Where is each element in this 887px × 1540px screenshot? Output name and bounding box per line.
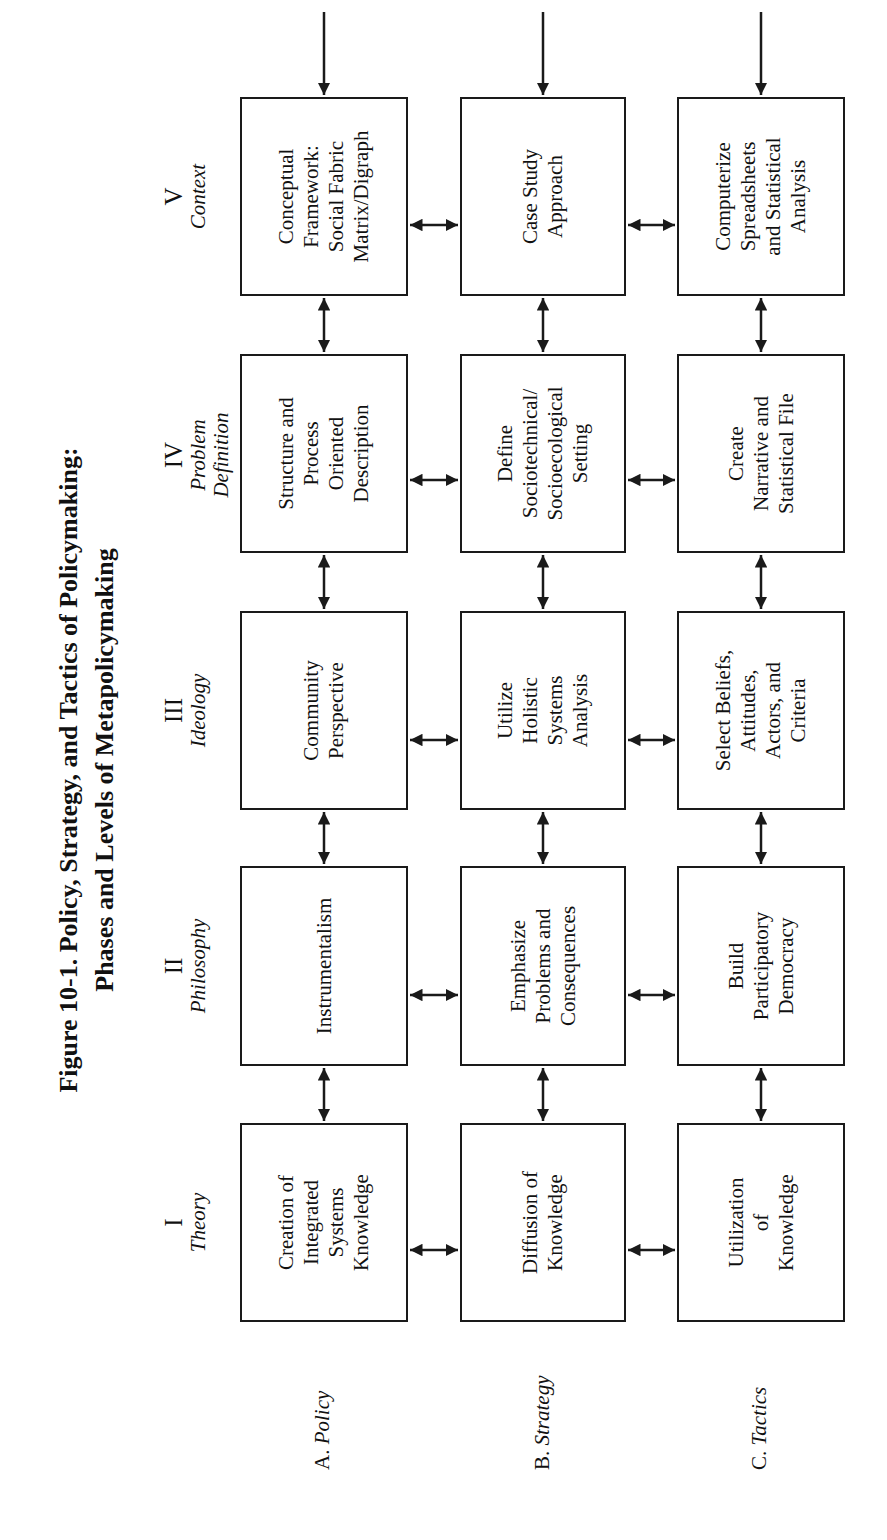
cell-text: Create Narrative and Statistical File [724, 393, 799, 514]
cell-policy-theory: Creation of Integrated Systems Knowledge [240, 1123, 408, 1322]
cell-text: Conceptual Framework: Social Fabric Matr… [274, 131, 374, 263]
cell-strategy-problem-definition: Define Sociotechnical/ Socioecological S… [460, 354, 626, 553]
cell-tactics-ideology: Select Beliefs, Attitudes, Actors, and C… [677, 611, 845, 810]
cell-text: Utilization of Knowledge [724, 1174, 799, 1271]
cell-strategy-context: Case Study Approach [460, 97, 626, 296]
cell-policy-philosophy: Instrumentalism [240, 866, 408, 1066]
cell-tactics-problem-definition: Create Narrative and Statistical File [677, 354, 845, 553]
cell-tactics-philosophy: Build Participatory Democracy [677, 866, 845, 1066]
cell-text: Creation of Integrated Systems Knowledge [274, 1174, 374, 1271]
cell-policy-context: Conceptual Framework: Social Fabric Matr… [240, 97, 408, 296]
cell-text: Structure and Process Oriented Descripti… [274, 397, 374, 510]
cell-strategy-ideology: Utilize Holistic Systems Analysis [460, 611, 626, 810]
cell-text: Diffusion of Knowledge [518, 1171, 568, 1274]
cell-tactics-context: Computerize Spreadsheets and Statistical… [677, 97, 845, 296]
cell-text: Emphasize Problems and Consequences [506, 906, 581, 1026]
cell-text: Build Participatory Democracy [724, 912, 799, 1020]
cell-tactics-theory: Utilization of Knowledge [677, 1123, 845, 1322]
cell-text: Computerize Spreadsheets and Statistical… [711, 137, 811, 255]
cell-strategy-theory: Diffusion of Knowledge [460, 1123, 626, 1322]
cell-policy-problem-definition: Structure and Process Oriented Descripti… [240, 354, 408, 553]
cell-strategy-philosophy: Emphasize Problems and Consequences [460, 866, 626, 1066]
cell-policy-ideology: Community Perspective [240, 611, 408, 810]
cell-text: Define Sociotechnical/ Socioecological S… [493, 386, 593, 520]
cell-text: Select Beliefs, Attitudes, Actors, and C… [711, 650, 811, 771]
cell-text: Instrumentalism [312, 898, 337, 1034]
cell-text: Utilize Holistic Systems Analysis [493, 674, 593, 748]
figure-diagram: Figure 10-1. Policy, Strategy, and Tacti… [0, 0, 887, 1540]
cell-text: Community Perspective [299, 660, 349, 760]
cell-text: Case Study Approach [518, 149, 568, 244]
